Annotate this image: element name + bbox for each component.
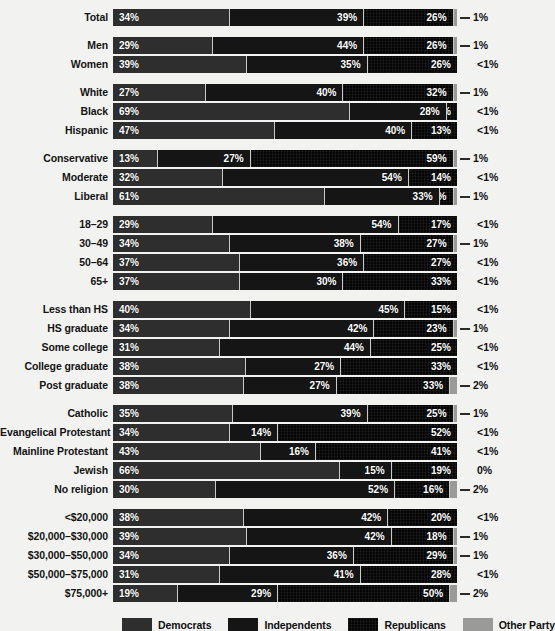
segment-republicans: 4% [440,188,454,205]
segment-independents: 28% [350,103,446,120]
chart-row: $20,000–$30,00039%42%18%1% [0,528,508,545]
chart-row: 50–6437%36%27%<1% [0,254,508,271]
leader-line [460,555,470,557]
segment-democrats: 38% [113,358,246,375]
segment-value-label: 40% [316,84,342,101]
segment-republicans: 29% [354,547,454,564]
segment-other-party [450,481,457,498]
segment-independents: 54% [223,169,409,186]
segment-value-label: 17% [431,216,457,233]
segment-value-label: 66% [113,462,139,479]
segment-independents: 38% [230,235,361,252]
other-party-value-label: 1% [473,188,488,205]
segment-republicans: 26% [364,37,453,54]
segment-republicans: 52% [278,424,457,441]
segment-independents: 30% [240,273,343,290]
segment-value-label: 69% [113,103,139,120]
segment-value-label: 32% [427,84,453,101]
row-label: Jewish [0,462,113,479]
chart-row: Evangelical Protestant34%14%52%<1% [0,424,508,441]
chart-row: Black69%28%3%<1% [0,103,508,120]
other-party-callout: 1% [457,37,508,54]
segment-democrats: 29% [113,37,213,54]
segment-value-label: 35% [113,405,139,422]
segment-value-label: 3% [447,103,457,120]
bar-group-religion: Catholic35%39%25%1%Evangelical Protestan… [0,405,508,498]
segment-independents: 54% [213,216,399,233]
segment-value-label: 42% [361,509,387,526]
stacked-bar: 29%44%26% [113,37,457,54]
other-party-value-label: <1% [477,103,498,120]
chart-row: Total34%39%26%1% [0,9,508,26]
segment-democrats: 40% [113,301,251,318]
chart-row: No religion30%52%16%2% [0,481,508,498]
chart-plot-area: Total34%39%26%1%Men29%44%26%1%Women39%35… [0,9,508,631]
segment-value-label: 39% [113,528,139,545]
segment-democrats: 34% [113,547,230,564]
segment-value-label: 41% [431,443,457,460]
segment-republicans: 20% [388,509,457,526]
segment-value-label: 38% [113,358,139,375]
segment-democrats: 47% [113,122,275,139]
segment-value-label: 30% [316,273,342,290]
segment-democrats: 66% [113,462,340,479]
segment-republicans: 19% [392,462,457,479]
row-label: $20,000–$30,000 [0,528,113,545]
chart-row: <$20,00038%42%20%<1% [0,509,508,526]
segment-democrats: 27% [113,84,206,101]
segment-independents: 27% [244,377,337,394]
legend-label: Democrats [158,619,211,631]
row-label: Post graduate [0,377,113,394]
leader-line [460,158,470,160]
segment-independents: 15% [340,462,392,479]
stacked-bar: 29%54%17% [113,216,457,233]
other-party-value-label: <1% [477,273,498,290]
segment-democrats: 34% [113,235,230,252]
other-party-value-label: <1% [477,424,498,441]
chart-row: Mainline Protestant43%16%41%<1% [0,443,508,460]
row-label: Less than HS [0,301,113,318]
segment-value-label: 32% [113,169,139,186]
other-party-callout: 2% [457,377,508,394]
other-party-callout: 1% [457,405,508,422]
leader-line [460,17,470,19]
segment-democrats: 29% [113,216,213,233]
segment-value-label: 30% [113,481,139,498]
chart-row: Men29%44%26%1% [0,37,508,54]
other-party-callout: <1% [457,509,508,526]
segment-independents: 40% [275,122,413,139]
other-party-value-label: 1% [473,405,488,422]
other-party-value-label: 1% [473,528,488,545]
other-party-callout: <1% [457,424,508,441]
stacked-bar: 34%39%26% [113,9,457,26]
other-party-value-label: <1% [477,301,498,318]
segment-value-label: 26% [431,56,457,73]
row-label: No religion [0,481,113,498]
other-party-value-label: 0% [477,462,492,479]
row-label: $50,000–$75,000 [0,566,113,583]
segment-democrats: 38% [113,509,244,526]
segment-value-label: 16% [423,481,449,498]
chart-row: Conservative13%27%59%1% [0,150,508,167]
row-label: 30–49 [0,235,113,252]
other-party-callout: <1% [457,566,508,583]
row-label: Hispanic [0,122,113,139]
other-party-callout: <1% [457,443,508,460]
segment-value-label: 45% [378,301,404,318]
row-label: Black [0,103,113,120]
other-party-callout: <1% [457,358,508,375]
segment-independents: 42% [244,509,388,526]
segment-independents: 52% [216,481,395,498]
segment-value-label: 14% [431,169,457,186]
other-party-value-label: 1% [473,547,488,564]
row-label: Some college [0,339,113,356]
row-label: <$20,000 [0,509,113,526]
segment-independents: 40% [206,84,344,101]
row-label: Moderate [0,169,113,186]
segment-republicans: 50% [278,585,450,602]
segment-democrats: 32% [113,169,223,186]
legend-swatch [463,618,493,631]
segment-independents: 42% [247,528,391,545]
row-label: White [0,84,113,101]
